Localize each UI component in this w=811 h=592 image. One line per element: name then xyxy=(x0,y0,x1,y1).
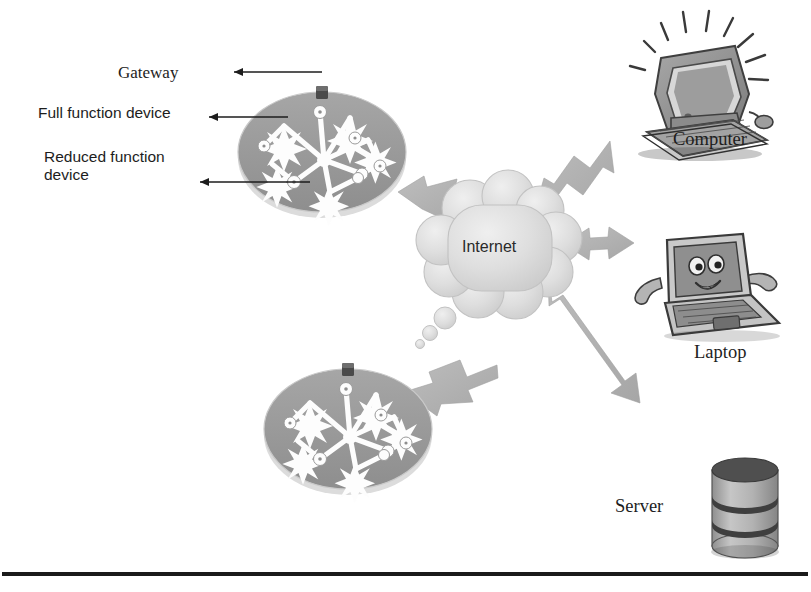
rfd-line-1: Reduced function xyxy=(44,148,165,165)
full-function-device-label: Full function device xyxy=(38,104,171,122)
rfd-line-2: device xyxy=(44,166,89,183)
server-label: Server xyxy=(615,496,663,518)
gateway-label: Gateway xyxy=(118,63,178,83)
laptop-label: Laptop xyxy=(694,342,746,364)
diagram-text: Gateway Full function device Reduced fun… xyxy=(0,0,811,592)
computer-label: Computer xyxy=(673,129,747,151)
bottom-divider xyxy=(2,572,808,576)
reduced-function-device-label: Reduced functiondevice xyxy=(44,148,165,185)
internet-label: Internet xyxy=(462,238,516,257)
diagram-canvas: Gateway Full function device Reduced fun… xyxy=(0,0,811,592)
